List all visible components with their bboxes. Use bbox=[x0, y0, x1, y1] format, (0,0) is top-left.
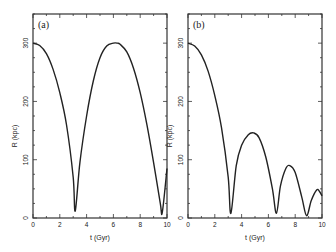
panel-a: 02468100100200300t (Gyr)R (kpc)(a) bbox=[11, 14, 171, 242]
x-tick-label: 10 bbox=[163, 221, 171, 228]
x-tick-label: 8 bbox=[293, 221, 297, 228]
x-tick-label: 4 bbox=[240, 221, 244, 228]
x-tick-label: 6 bbox=[267, 221, 271, 228]
x-tick-label: 0 bbox=[186, 221, 190, 228]
x-tick-label: 10 bbox=[318, 221, 326, 228]
orbit-curve bbox=[188, 43, 322, 216]
x-tick-label: 4 bbox=[85, 221, 89, 228]
y-tick-label: 200 bbox=[22, 96, 29, 107]
y-tick-label: 0 bbox=[22, 216, 29, 220]
y-tick-label: 0 bbox=[177, 216, 184, 220]
x-tick-label: 8 bbox=[138, 221, 142, 228]
chart-figure: 02468100100200300t (Gyr)R (kpc)(a) 02468… bbox=[0, 0, 336, 252]
panel-b: 02468100100200300t (Gyr)R (kpc)(b) bbox=[166, 14, 326, 242]
y-tick-label: 100 bbox=[22, 154, 29, 165]
plot-frame bbox=[33, 14, 167, 218]
y-tick-label: 100 bbox=[177, 154, 184, 165]
panel-label: (b) bbox=[193, 19, 205, 31]
x-tick-label: 2 bbox=[58, 221, 62, 228]
orbit-curve bbox=[33, 43, 167, 215]
y-axis-label: R (kpc) bbox=[166, 125, 174, 148]
x-axis-label: t (Gyr) bbox=[90, 234, 110, 242]
x-axis-label: t (Gyr) bbox=[245, 234, 265, 242]
panel-label: (a) bbox=[38, 19, 49, 31]
y-tick-label: 300 bbox=[177, 37, 184, 48]
y-tick-label: 200 bbox=[177, 96, 184, 107]
x-tick-label: 0 bbox=[31, 221, 35, 228]
x-tick-label: 2 bbox=[213, 221, 217, 228]
y-tick-label: 300 bbox=[22, 37, 29, 48]
y-axis-label: R (kpc) bbox=[11, 125, 19, 148]
plot-frame bbox=[188, 14, 322, 218]
x-tick-label: 6 bbox=[112, 221, 116, 228]
